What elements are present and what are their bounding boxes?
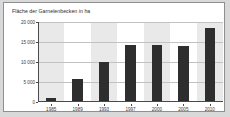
y-axis-tick-mark — [36, 62, 38, 63]
y-axis-tick-label: 20 000 — [21, 20, 35, 25]
bar — [72, 79, 83, 101]
y-axis-tick-label: 15 000 — [21, 40, 35, 45]
bar — [125, 45, 136, 101]
x-axis-tick-mark — [78, 104, 79, 106]
bar — [205, 28, 216, 101]
y-axis-tick-mark — [36, 102, 38, 103]
chart-title: Fläche der Garnelenbecken in ha — [12, 8, 90, 14]
gridline — [38, 42, 223, 43]
x-axis-line — [38, 101, 223, 102]
y-axis-tick-mark — [36, 42, 38, 43]
x-axis-tick-label: 1989 — [73, 107, 83, 112]
gridline — [38, 22, 223, 23]
x-axis-tick-mark — [157, 104, 158, 106]
image-margin: Fläche der Garnelenbecken in ha 05 00010… — [0, 0, 230, 117]
x-axis-tick-label: 2005 — [178, 107, 188, 112]
x-axis-tick-label: 2010 — [205, 107, 215, 112]
y-axis-tick-mark — [36, 82, 38, 83]
x-axis-tick-mark — [131, 104, 132, 106]
bar — [178, 46, 189, 101]
y-axis-tick-label: 0 — [32, 100, 35, 105]
x-axis-tick-mark — [183, 104, 184, 106]
x-axis-tick-label: 1997 — [125, 107, 135, 112]
bar — [152, 45, 163, 101]
y-axis-line — [38, 22, 39, 102]
x-axis-tick-label: 1993 — [99, 107, 109, 112]
x-axis-tick-mark — [104, 104, 105, 106]
chart-frame: Fläche der Garnelenbecken in ha 05 00010… — [3, 2, 225, 112]
x-axis-tick-label: 1985 — [46, 107, 56, 112]
bar — [99, 62, 110, 101]
x-axis-labels: 1985198919931997200020052010 — [38, 104, 223, 114]
y-axis-tick-mark — [36, 22, 38, 23]
x-axis-tick-mark — [51, 104, 52, 106]
plot-area: 05 00010 00015 00020 000 — [38, 22, 223, 102]
x-axis-tick-mark — [210, 104, 211, 106]
y-axis-tick-label: 5 000 — [24, 80, 36, 85]
x-axis-tick-label: 2000 — [152, 107, 162, 112]
y-axis-tick-label: 10 000 — [21, 60, 35, 65]
